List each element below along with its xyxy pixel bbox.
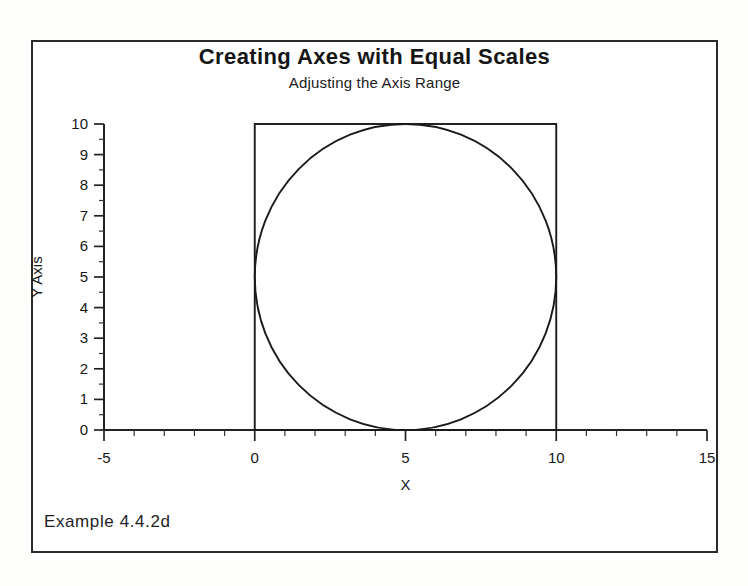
y-axis-title: Y Axis xyxy=(28,256,45,297)
y-tick-label: 2 xyxy=(80,360,88,377)
x-tick-label: 15 xyxy=(699,449,716,466)
series-square xyxy=(255,124,557,430)
y-tick-label: 10 xyxy=(71,115,88,132)
y-tick-label: 0 xyxy=(80,421,88,438)
series-circle xyxy=(255,124,557,430)
y-tick-label: 3 xyxy=(80,329,88,346)
y-tick-label: 8 xyxy=(80,176,88,193)
x-tick-label: 10 xyxy=(548,449,565,466)
x-tick-label: 5 xyxy=(401,449,409,466)
figure-caption: Example 4.4.2d xyxy=(44,512,171,532)
plot-area: -5051015012345678910XY Axis xyxy=(0,0,748,586)
y-tick-label: 7 xyxy=(80,207,88,224)
y-tick-label: 5 xyxy=(80,268,88,285)
x-tick-label: -5 xyxy=(97,449,110,466)
figure-page: Creating Axes with Equal Scales Adjustin… xyxy=(0,0,748,586)
y-tick-label: 1 xyxy=(80,390,88,407)
y-tick-label: 4 xyxy=(80,299,88,316)
x-tick-label: 0 xyxy=(251,449,259,466)
y-tick-label: 9 xyxy=(80,146,88,163)
x-axis-title: X xyxy=(400,476,410,493)
y-tick-label: 6 xyxy=(80,237,88,254)
